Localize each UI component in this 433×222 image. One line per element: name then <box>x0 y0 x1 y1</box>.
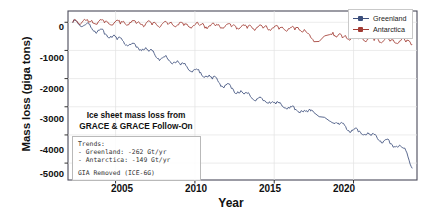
legend-item-antarctica[interactable]: Antarctica <box>353 24 407 35</box>
x-tick-label: 2010 <box>166 183 226 194</box>
y-tick-label: -1000 <box>4 52 64 63</box>
x-tick-label: 2020 <box>314 183 374 194</box>
annotation-title: Ice sheet mass loss from GRACE & GRACE F… <box>72 110 200 132</box>
y-tick-label: -5000 <box>4 168 64 179</box>
y-axis-tick-labels: 0 -1000 -2000 -3000 -4000 -5000 <box>0 0 64 222</box>
legend-swatch-greenland <box>353 18 369 19</box>
legend-label-greenland: Greenland <box>373 14 407 23</box>
y-axis-title: Mass loss (giga tons) <box>20 24 32 164</box>
chart-figure: 0 -1000 -2000 -3000 -4000 -5000 2005 201… <box>0 0 433 222</box>
y-tick-label: -2000 <box>4 83 64 94</box>
trend-antarctica: - Antarctica: -149 Gt/yr <box>78 156 196 164</box>
annotation-title-line2: GRACE & GRACE Follow-On <box>79 121 192 131</box>
y-tick-label: -3000 <box>4 113 64 124</box>
chart-legend: Greenland Antarctica <box>348 9 413 39</box>
y-tick-label: 0 <box>4 21 64 32</box>
legend-item-greenland[interactable]: Greenland <box>353 13 407 24</box>
x-axis-title: Year <box>176 196 286 210</box>
gia-note: GIA Removed (ICE-6G) <box>78 169 196 177</box>
trends-header: Trends: <box>78 140 196 148</box>
legend-label-antarctica: Antarctica <box>373 25 405 34</box>
trend-greenland: - Greenland: -262 Gt/yr <box>78 148 196 156</box>
annotation-title-line1: Ice sheet mass loss from <box>87 110 186 120</box>
y-tick-label: -4000 <box>4 144 64 155</box>
x-tick-label: 2015 <box>240 183 300 194</box>
trends-annotation-box: Trends: - Greenland: -262 Gt/yr - Antarc… <box>72 136 201 181</box>
legend-swatch-antarctica <box>353 29 369 30</box>
x-tick-label: 2005 <box>92 183 152 194</box>
